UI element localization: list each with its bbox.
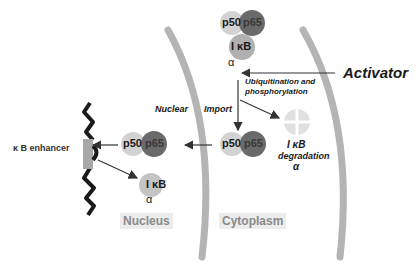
cyto-p50-label: p50: [222, 137, 241, 149]
nuclear-membrane: [168, 30, 206, 257]
ikb-synthesis-arrow: [98, 160, 137, 178]
nuc-alpha-label: α: [146, 193, 152, 205]
degradation-ikb-label: I κB: [287, 139, 305, 150]
top-alpha-label: α: [228, 56, 234, 68]
dna-bend: [93, 146, 97, 160]
kb-enhancer-label: κ B enhancer: [13, 143, 70, 153]
degraded-ikb-icon: [283, 108, 311, 136]
cyto-p65-label: p65: [244, 137, 263, 149]
diagram-canvas: [0, 0, 418, 278]
cytoplasm-region-label: Cytoplasm: [219, 213, 286, 229]
kb-enhancer-site: [83, 139, 93, 169]
nucleus-region-label: Nucleus: [120, 213, 173, 229]
nuclear-label: Nuclear: [155, 104, 188, 114]
top-p50-label: p50: [222, 16, 241, 28]
activator-label: Activator: [343, 64, 408, 81]
import-label: Import: [204, 104, 232, 114]
ubiquitination-label-2: phosphorylation: [245, 87, 308, 96]
cell-membrane: [303, 30, 343, 257]
degradation-arrow: [240, 100, 279, 118]
degradation-alpha-label: α: [293, 161, 299, 172]
nuc-ikb-label: I κB: [146, 178, 166, 190]
ubiquitination-label-1: Ubiquitination and: [245, 77, 315, 86]
nuc-p50-label: p50: [123, 137, 142, 149]
top-p65-label: p65: [243, 16, 262, 28]
nuc-p65-label: p65: [145, 137, 164, 149]
top-ikb-label: I κB: [231, 40, 251, 52]
degradation-label: degradation: [278, 151, 330, 161]
